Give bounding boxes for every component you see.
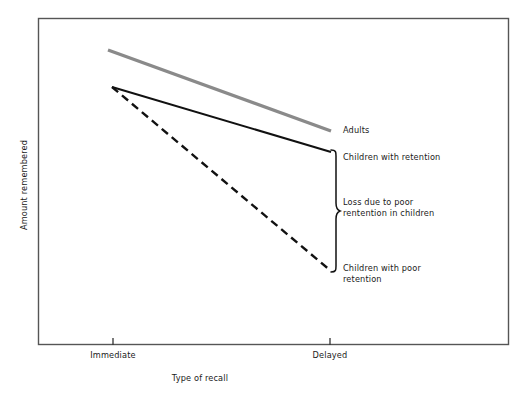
series-label-children-with-poor-retention-line2: retention xyxy=(343,274,382,284)
x-axis-title: Type of recall xyxy=(171,373,228,383)
series-label-children-with-retention: Children with retention xyxy=(343,152,440,162)
recall-retention-line-chart: Amount remembered Type of recall Immedia… xyxy=(0,0,528,398)
annotation-loss-line2: rentention in children xyxy=(343,208,434,218)
y-axis-title: Amount remembered xyxy=(19,140,29,230)
chart-frame xyxy=(39,19,509,345)
x-tick-label-delayed: Delayed xyxy=(313,350,348,360)
chart-page: Amount remembered Type of recall Immedia… xyxy=(0,0,528,398)
series-label-adults: Adults xyxy=(343,125,370,135)
series-label-children-with-poor-retention-line1: Children with poor xyxy=(343,263,421,273)
annotation-loss-line1: Loss due to poor xyxy=(343,197,414,207)
x-tick-label-immediate: Immediate xyxy=(90,350,136,360)
